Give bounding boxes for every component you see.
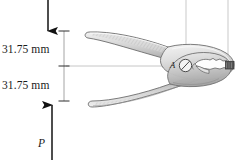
dimension-label-upper: 31.75 mm (2, 44, 49, 56)
dimension-label-lower: 31.75 mm (2, 80, 49, 92)
dimension-lines (59, 31, 70, 101)
pivot-label-a: A (170, 61, 175, 70)
pliers-force-diagram: 31.75 mm 31.75 mm P A (0, 0, 246, 163)
gripped-block (226, 62, 235, 70)
force-label-p: P (38, 138, 45, 150)
pivot-pin (179, 59, 191, 71)
